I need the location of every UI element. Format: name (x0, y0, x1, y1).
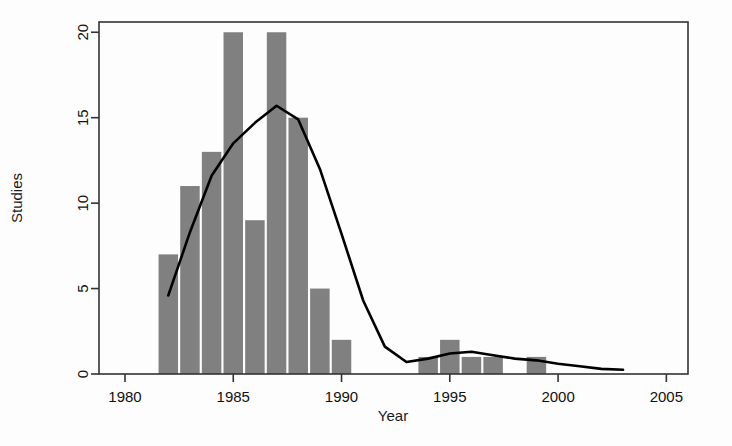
x-tick-label: 1980 (108, 388, 141, 405)
x-tick-label: 1990 (325, 388, 358, 405)
x-tick-label: 2005 (650, 388, 683, 405)
histogram-bar (202, 152, 221, 374)
y-tick-label: 5 (74, 284, 91, 292)
x-axis-label: Year (378, 407, 408, 424)
histogram-bar (288, 118, 307, 374)
histogram-bar (224, 32, 243, 374)
x-tick-label: 1995 (433, 388, 466, 405)
figure-background (0, 0, 732, 446)
histogram-bar (332, 340, 351, 374)
y-tick-label: 0 (74, 370, 91, 378)
y-tick-label: 15 (74, 109, 91, 126)
histogram-bar (462, 357, 481, 374)
histogram-bar (245, 220, 264, 374)
x-tick-label: 1985 (217, 388, 250, 405)
chart-figure: 198019851990199520002005 05101520 Year S… (0, 0, 732, 446)
histogram-bar (483, 357, 502, 374)
histogram-bar (440, 340, 459, 374)
histogram-plot: 198019851990199520002005 05101520 Year S… (0, 0, 732, 446)
histogram-bar (310, 289, 329, 374)
y-axis-label: Studies (8, 173, 25, 223)
x-tick-label: 2000 (541, 388, 574, 405)
histogram-bar (267, 32, 286, 374)
y-tick-label: 20 (74, 24, 91, 41)
y-tick-label: 10 (74, 195, 91, 212)
